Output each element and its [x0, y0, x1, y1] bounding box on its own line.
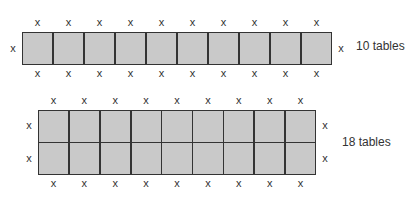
- seat-marker-top: x: [250, 17, 260, 28]
- table-square: [101, 143, 130, 174]
- seat-marker-bottom: x: [79, 178, 89, 189]
- seat-marker-bottom: x: [157, 68, 167, 79]
- seat-marker-top: x: [33, 17, 43, 28]
- table-square: [39, 143, 68, 174]
- table-square: [193, 143, 222, 174]
- seat-marker-top: x: [296, 95, 306, 106]
- table-square: [147, 33, 176, 64]
- table-square: [23, 33, 52, 64]
- table-grid: [22, 32, 332, 65]
- table-square: [209, 33, 238, 64]
- table-square: [116, 33, 145, 64]
- seat-marker-top: x: [188, 17, 198, 28]
- seat-marker-top: x: [126, 17, 136, 28]
- label-18-tables: 18 tables: [342, 135, 391, 149]
- table-square: [240, 33, 269, 64]
- seat-marker-right: x: [336, 43, 346, 54]
- table-square: [271, 33, 300, 64]
- seat-marker-bottom: x: [250, 68, 260, 79]
- seat-marker-bottom: x: [33, 68, 43, 79]
- seat-marker-bottom: x: [234, 178, 244, 189]
- seat-marker-bottom: x: [110, 178, 120, 189]
- seat-marker-top: x: [141, 95, 151, 106]
- seat-marker-bottom: x: [126, 68, 136, 79]
- seat-marker-top: x: [234, 95, 244, 106]
- table-square: [162, 111, 191, 142]
- table-square: [162, 143, 191, 174]
- table-square: [286, 111, 315, 142]
- seat-marker-top: x: [157, 17, 167, 28]
- seat-marker-top: x: [64, 17, 74, 28]
- seat-marker-bottom: x: [312, 68, 322, 79]
- seat-marker-top: x: [95, 17, 105, 28]
- seat-marker-bottom: x: [296, 178, 306, 189]
- table-square: [70, 111, 99, 142]
- table-square: [255, 111, 284, 142]
- table-grid: [38, 110, 316, 175]
- table-square: [70, 143, 99, 174]
- table-square: [39, 111, 68, 142]
- seat-marker-top: x: [203, 95, 213, 106]
- seat-marker-bottom: x: [48, 178, 58, 189]
- table-square: [132, 111, 161, 142]
- seat-marker-top: x: [265, 95, 275, 106]
- seat-marker-top: x: [79, 95, 89, 106]
- table-square: [101, 111, 130, 142]
- seat-marker-bottom: x: [172, 178, 182, 189]
- seat-marker-right: x: [320, 153, 330, 164]
- seat-marker-bottom: x: [141, 178, 151, 189]
- table-square: [302, 33, 331, 64]
- seat-marker-top: x: [110, 95, 120, 106]
- table-square: [193, 111, 222, 142]
- seat-marker-right: x: [320, 120, 330, 131]
- label-10-tables: 10 tables: [356, 39, 405, 53]
- seat-marker-left: x: [24, 120, 34, 131]
- seat-marker-top: x: [219, 17, 229, 28]
- seat-marker-top: x: [312, 17, 322, 28]
- table-square: [54, 33, 83, 64]
- seat-marker-bottom: x: [281, 68, 291, 79]
- seat-marker-bottom: x: [188, 68, 198, 79]
- table-square: [224, 111, 253, 142]
- seat-marker-bottom: x: [64, 68, 74, 79]
- seat-marker-bottom: x: [95, 68, 105, 79]
- seat-marker-left: x: [24, 153, 34, 164]
- table-square: [224, 143, 253, 174]
- table-square: [85, 33, 114, 64]
- table-square: [132, 143, 161, 174]
- seat-marker-bottom: x: [265, 178, 275, 189]
- table-square: [178, 33, 207, 64]
- seat-marker-bottom: x: [203, 178, 213, 189]
- table-square: [255, 143, 284, 174]
- seat-marker-top: x: [172, 95, 182, 106]
- seat-marker-bottom: x: [219, 68, 229, 79]
- seat-marker-top: x: [281, 17, 291, 28]
- table-square: [286, 143, 315, 174]
- seat-marker-top: x: [48, 95, 58, 106]
- seat-marker-left: x: [8, 43, 18, 54]
